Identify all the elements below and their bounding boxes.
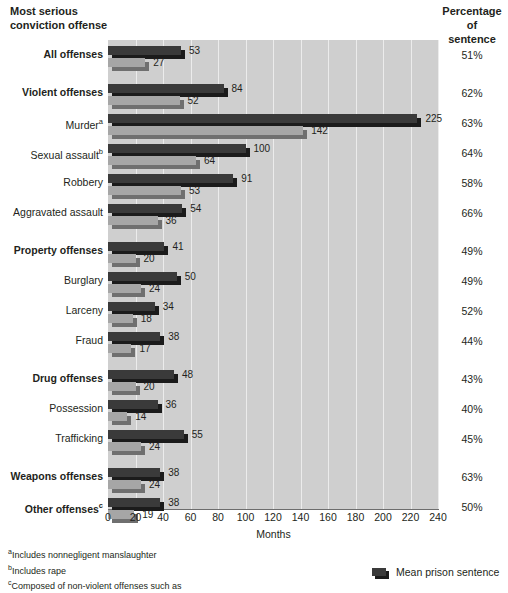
bar-mean-sentence (108, 370, 174, 379)
bar-time-served (108, 58, 145, 67)
bar-mean-sentence (108, 430, 184, 439)
chart-row: Trafficking552445% (0, 426, 508, 456)
bar-shadow-right (182, 208, 186, 217)
legend-swatch-shadow-right (386, 571, 389, 579)
x-tick-0: 0 (93, 511, 123, 523)
bar-time-served (108, 96, 180, 105)
row-label: Larceny (0, 304, 103, 316)
x-tick-80: 80 (203, 511, 233, 523)
x-tick-240: 240 (423, 511, 453, 523)
bar-shadow-right (160, 502, 164, 511)
footnote-a: aIncludes nonnegligent manslaughter (8, 546, 308, 562)
value-time-served: 64 (204, 155, 215, 166)
bar-shadow-bottom (112, 135, 307, 139)
chart-row: Burglary502449% (0, 268, 508, 298)
bar-mean-sentence (108, 498, 160, 507)
value-mean-sentence: 225 (425, 113, 442, 124)
chart-row: Murdera22514263% (0, 110, 508, 140)
percentage-of-sentence: 44% (446, 335, 498, 347)
chart-row: Fraud381744% (0, 328, 508, 358)
row-label: Murdera (0, 116, 103, 131)
value-time-served: 14 (135, 411, 146, 422)
bar-mean-sentence (108, 46, 181, 55)
row-label: Robbery (0, 176, 103, 188)
value-time-served: 24 (149, 479, 160, 490)
bar-group: 9153 (108, 170, 438, 200)
row-label: Weapons offenses (0, 470, 103, 482)
chart-row: Larceny341852% (0, 298, 508, 328)
value-time-served: 27 (153, 57, 164, 68)
value-mean-sentence: 91 (241, 173, 252, 184)
chart-row: All offenses532751% (0, 42, 508, 72)
bar-shadow-right (184, 434, 188, 443)
row-label: Trafficking (0, 432, 103, 444)
bar-shadow-right (158, 220, 162, 229)
bar-time-served (108, 344, 131, 353)
value-time-served: 24 (149, 283, 160, 294)
bar-group: 3614 (108, 396, 438, 426)
footnote-marker: c (8, 579, 12, 586)
bar-group: 4120 (108, 238, 438, 268)
bar-shadow-right (131, 348, 135, 357)
bar-time-served (108, 254, 136, 263)
bar-shadow-right (164, 246, 168, 255)
bar-group: 5436 (108, 200, 438, 230)
bar-group: 3824 (108, 464, 438, 494)
bar-shadow-right (196, 160, 200, 169)
bar-mean-sentence (108, 242, 164, 251)
bar-shadow-right (141, 288, 145, 297)
bar-shadow-right (233, 178, 237, 187)
bar-time-served (108, 156, 196, 165)
x-tick-220: 220 (396, 511, 426, 523)
value-time-served: 53 (189, 185, 200, 196)
bar-shadow-right (177, 276, 181, 285)
bar-shadow-right (141, 446, 145, 455)
bar-mean-sentence (108, 272, 177, 281)
value-mean-sentence: 54 (190, 203, 201, 214)
bar-shadow-right (417, 118, 421, 127)
percentage-of-sentence: 49% (446, 275, 498, 287)
bar-shadow-right (141, 484, 145, 493)
bar-shadow-right (127, 416, 131, 425)
value-mean-sentence: 48 (182, 369, 193, 380)
row-label: Violent offenses (0, 86, 103, 98)
bar-group: 5524 (108, 426, 438, 456)
chart-row: Violent offenses845262% (0, 80, 508, 110)
row-label: Aggravated assault (0, 206, 103, 218)
value-mean-sentence: 55 (192, 429, 203, 440)
bar-group: 4820 (108, 366, 438, 396)
bar-mean-sentence (108, 400, 158, 409)
bar-time-served (108, 284, 141, 293)
value-time-served: 52 (188, 95, 199, 106)
percentage-of-sentence: 43% (446, 373, 498, 385)
percentage-of-sentence: 64% (446, 147, 498, 159)
column-header-offense: Most serious conviction offense (10, 4, 160, 32)
bar-time-served (108, 186, 181, 195)
bar-time-served (108, 412, 127, 421)
legend-label: Mean prison sentence (396, 566, 499, 578)
x-tick-40: 40 (148, 511, 178, 523)
x-tick-160: 160 (313, 511, 343, 523)
value-time-served: 17 (139, 343, 150, 354)
x-axis-tick-labels: 020406080100120140160180200220240 (0, 511, 508, 527)
row-label: Sexual assaultb (0, 146, 103, 161)
percentage-of-sentence: 62% (446, 87, 498, 99)
value-mean-sentence: 50 (185, 271, 196, 282)
bar-time-served (108, 126, 303, 135)
value-time-served: 24 (149, 441, 160, 452)
row-label: Drug offenses (0, 372, 103, 384)
percentage-of-sentence: 45% (446, 433, 498, 445)
row-label: Possession (0, 402, 103, 414)
value-mean-sentence: 36 (166, 399, 177, 410)
bar-mean-sentence (108, 302, 155, 311)
percentage-of-sentence: 63% (446, 471, 498, 483)
value-mean-sentence: 53 (189, 45, 200, 56)
bar-group: 8452 (108, 80, 438, 110)
value-time-served: 142 (311, 125, 328, 136)
bar-shadow-right (133, 318, 137, 327)
bar-group: 3418 (108, 298, 438, 328)
x-tick-180: 180 (341, 511, 371, 523)
value-time-served: 36 (166, 215, 177, 226)
bar-time-served (108, 314, 133, 323)
bar-mean-sentence (108, 468, 160, 477)
